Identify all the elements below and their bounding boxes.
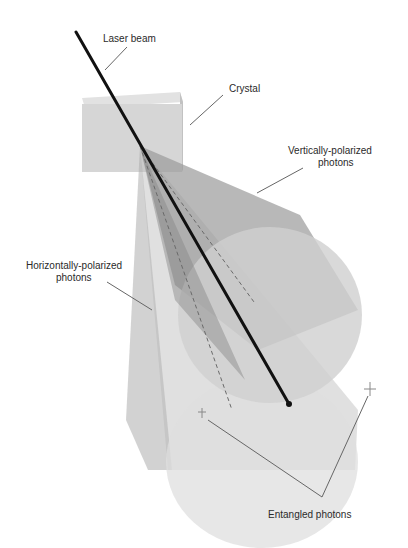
- vertical-photons-label-line1: Vertically-polarized: [288, 145, 372, 157]
- beam-end: [286, 401, 292, 407]
- entangled-photon-marker-right: [364, 382, 376, 396]
- crystal-label: Crystal: [229, 83, 260, 95]
- entangled-photons-label: Entangled photons: [268, 509, 351, 521]
- vertical-photons-label-line2: photons: [318, 157, 354, 169]
- horizontal-photons-label-line1: Horizontally-polarized: [26, 260, 122, 272]
- laser-beam-label: Laser beam: [103, 33, 156, 45]
- horizontal-photons-label-line2: photons: [56, 272, 92, 284]
